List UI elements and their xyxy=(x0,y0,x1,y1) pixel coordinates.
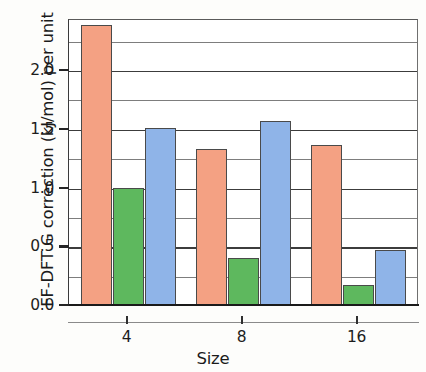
x-tick-16 xyxy=(356,316,358,324)
x-tick-label: 8 xyxy=(222,328,262,346)
bar-layer xyxy=(69,20,417,305)
x-tick-label: 4 xyxy=(107,328,147,346)
y-tick-label: 1.5 xyxy=(8,120,54,138)
bar-series-3-size-4 xyxy=(145,128,176,305)
y-tick-label: 0.5 xyxy=(8,237,54,255)
y-tick-1-0 xyxy=(59,187,69,189)
x-tick-label: 16 xyxy=(337,328,377,346)
y-axis-title: FF-DFT G correction (kJ/mol) per unit xyxy=(38,10,57,310)
y-tick-0-0 xyxy=(59,304,69,306)
bar-series-3-size-8 xyxy=(260,121,291,305)
y-tick-label: 1.0 xyxy=(8,179,54,197)
bar-series-3-size-16 xyxy=(375,250,406,305)
x-axis-line xyxy=(68,322,419,323)
y-tick-0-5 xyxy=(59,245,69,247)
x-tick-8 xyxy=(241,316,243,324)
x-axis-title: Size xyxy=(0,349,426,368)
bar-series-2-size-16 xyxy=(343,285,374,305)
bar-series-1-size-4 xyxy=(81,25,112,305)
bar-series-1-size-8 xyxy=(196,149,227,305)
x-tick-4 xyxy=(126,316,128,324)
y-tick-1-5 xyxy=(59,128,69,130)
plot-area xyxy=(68,19,418,305)
zero-baseline xyxy=(68,304,419,307)
y-tick-2-0 xyxy=(59,69,69,71)
bar-series-2-size-8 xyxy=(228,258,259,305)
y-tick-label: 0.0 xyxy=(8,296,54,314)
y-tick-label: 2.0 xyxy=(8,61,54,79)
bar-chart-figure: FF-DFT G correction (kJ/mol) per unit Si… xyxy=(0,0,426,372)
bar-series-1-size-16 xyxy=(311,145,342,305)
bar-series-2-size-4 xyxy=(113,188,144,306)
